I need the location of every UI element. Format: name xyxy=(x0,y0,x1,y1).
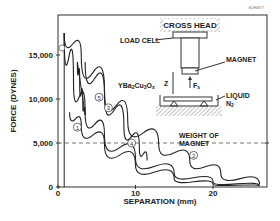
curve-4 xyxy=(85,62,147,161)
force-label: Fs xyxy=(193,82,200,90)
x-axis-label: SEPARATION (mm) xyxy=(123,197,196,206)
sample-label: YBa2Cu3Ox xyxy=(118,82,155,90)
y-tick-label: 5,000 xyxy=(33,139,54,148)
y-tick-label: 15,000 xyxy=(29,51,54,60)
load-cell xyxy=(173,32,207,38)
base-hatch xyxy=(156,106,222,116)
x-tick-label: 20 xyxy=(209,189,218,198)
rod xyxy=(181,38,199,68)
magnet-label: MAGNET xyxy=(226,56,257,63)
z-label: Z xyxy=(164,80,169,87)
plot-frame xyxy=(58,15,267,187)
figure-id: SCH4877 xyxy=(248,6,263,10)
liquid-label: LIQUID xyxy=(226,92,250,100)
chart-svg: 05,00010,00015,000 01020 SCH4877 SEPARAT… xyxy=(0,0,280,221)
n2-label: N2 xyxy=(226,100,234,108)
weight-label-line2: MAGNET xyxy=(179,140,210,147)
apparatus-diagram: CROSS HEAD LOAD CELL MAGNET Z Fs YBa2Cu3… xyxy=(118,18,257,116)
weight-label-line1: WEIGHT OF xyxy=(179,132,219,139)
superconductor-sample xyxy=(164,97,212,101)
y-tick-label: 0 xyxy=(49,183,54,192)
curve-markers: 12345 xyxy=(59,45,198,159)
x-tick-label: 0 xyxy=(56,189,61,198)
y-axis-label: FORCE (DYNES) xyxy=(9,69,18,132)
load-cell-label: LOAD CELL xyxy=(120,37,161,44)
cross-head-label: CROSS HEAD xyxy=(163,21,217,30)
curve-3 xyxy=(70,112,260,186)
y-tick-label: 10,000 xyxy=(29,95,54,104)
